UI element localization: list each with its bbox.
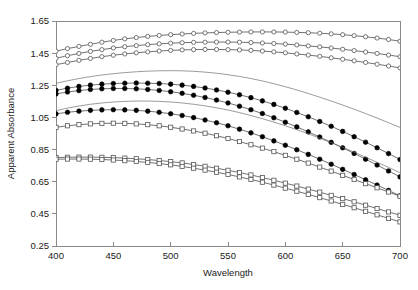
data-point-marker	[134, 159, 138, 163]
data-point-marker	[295, 147, 300, 152]
data-point-marker	[363, 140, 368, 145]
data-point-marker	[134, 43, 138, 47]
data-point-marker	[180, 164, 184, 168]
data-point-marker	[398, 39, 402, 43]
data-point-marker	[111, 86, 116, 91]
data-point-marker	[111, 121, 115, 125]
data-point-marker	[77, 58, 81, 62]
data-point-marker	[318, 196, 322, 200]
data-point-marker	[88, 87, 93, 92]
data-point-marker	[237, 40, 241, 44]
data-point-marker	[192, 166, 196, 170]
data-point-marker	[88, 122, 92, 126]
data-point-marker	[157, 33, 161, 37]
data-point-marker	[180, 48, 184, 52]
series-line	[56, 71, 400, 128]
data-point-marker	[272, 150, 276, 154]
data-point-marker	[295, 30, 299, 34]
data-point-marker	[214, 166, 218, 170]
data-point-marker	[65, 47, 69, 51]
data-point-marker	[249, 30, 253, 34]
data-point-marker	[352, 59, 356, 63]
data-point-marker	[157, 110, 162, 115]
data-point-marker	[237, 30, 241, 34]
data-point-marker	[306, 161, 310, 165]
data-point-marker	[283, 143, 288, 148]
data-point-marker	[295, 189, 299, 193]
data-point-marker	[100, 40, 104, 44]
data-point-marker	[192, 31, 196, 35]
data-point-marker	[157, 88, 162, 93]
data-point-marker	[272, 102, 277, 107]
data-point-marker	[77, 44, 81, 48]
data-point-marker	[386, 151, 391, 156]
data-point-marker	[226, 30, 230, 34]
data-point-marker	[203, 118, 208, 123]
data-point-marker	[283, 186, 287, 190]
data-point-marker	[249, 177, 253, 181]
data-point-marker	[88, 56, 92, 60]
data-point-marker	[352, 134, 357, 139]
data-point-marker	[260, 41, 264, 45]
data-point-marker	[226, 136, 230, 140]
data-point-marker	[249, 40, 253, 44]
data-point-marker	[77, 109, 82, 114]
data-point-marker	[398, 213, 402, 217]
data-point-marker	[123, 45, 127, 49]
data-point-marker	[249, 95, 254, 100]
data-point-marker	[329, 56, 333, 60]
x-tick-label: 550	[220, 250, 236, 261]
x-tick-label: 400	[48, 250, 64, 261]
data-point-marker	[398, 175, 403, 180]
data-point-marker	[341, 33, 345, 37]
data-point-marker	[169, 163, 173, 167]
data-point-marker	[340, 129, 345, 134]
data-point-marker	[386, 53, 390, 57]
data-point-marker	[203, 40, 207, 44]
data-point-marker	[88, 157, 92, 161]
data-point-marker	[375, 186, 379, 190]
data-point-marker	[169, 33, 173, 37]
chart-container: 0.250.450.650.851.051.251.451.65 4004505…	[0, 0, 418, 290]
data-point-marker	[123, 159, 127, 163]
data-point-marker	[111, 107, 116, 112]
data-point-marker	[306, 114, 311, 119]
data-point-marker	[237, 48, 241, 52]
data-point-marker	[65, 60, 69, 64]
data-point-marker	[180, 91, 185, 96]
data-point-marker	[54, 63, 58, 67]
data-point-marker	[214, 30, 218, 34]
data-point-marker	[375, 51, 379, 55]
data-point-marker	[65, 90, 70, 95]
data-point-marker	[341, 47, 345, 51]
data-point-marker	[134, 108, 139, 113]
data-point-marker	[145, 87, 150, 92]
data-point-marker	[134, 122, 138, 126]
data-point-marker	[168, 82, 173, 87]
series-line	[56, 49, 400, 68]
data-point-marker	[77, 123, 81, 127]
data-point-marker	[283, 181, 287, 185]
data-point-marker	[168, 111, 173, 116]
series-filled-circle	[54, 107, 403, 198]
data-point-marker	[352, 200, 356, 204]
data-point-marker	[226, 123, 231, 128]
data-point-marker	[54, 125, 58, 129]
data-point-marker	[111, 46, 115, 50]
series-none	[56, 71, 400, 128]
data-point-marker	[398, 55, 402, 59]
data-point-marker	[180, 83, 185, 88]
data-point-marker	[249, 143, 253, 147]
data-point-marker	[329, 162, 334, 167]
data-point-marker	[341, 202, 345, 206]
series-open-circle	[54, 47, 402, 70]
data-point-marker	[352, 177, 356, 181]
data-point-marker	[123, 81, 128, 86]
data-point-marker	[329, 32, 333, 36]
data-point-marker	[295, 43, 299, 47]
data-point-marker	[341, 57, 345, 61]
x-axis-tick-labels: 400450500550600650700	[48, 250, 408, 261]
y-tick-label: 1.25	[31, 80, 50, 91]
data-point-marker	[272, 139, 277, 144]
data-point-marker	[226, 172, 230, 176]
